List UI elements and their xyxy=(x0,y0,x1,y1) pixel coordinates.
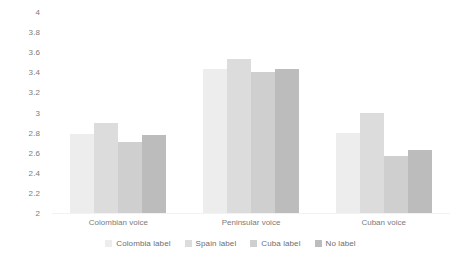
y-axis-tick-label: 2.2 xyxy=(29,188,40,197)
bar[interactable] xyxy=(408,150,432,213)
x-axis-category-label: Cuban voice xyxy=(361,218,405,227)
legend-swatch-icon xyxy=(185,240,192,247)
legend-swatch-icon xyxy=(315,240,322,247)
bar-group xyxy=(185,12,318,213)
y-axis-tick-label: 3.8 xyxy=(29,28,40,37)
bar[interactable] xyxy=(94,123,118,213)
y-axis-tick-label: 3.4 xyxy=(29,68,40,77)
y-axis-tick-label: 2 xyxy=(35,209,40,218)
x-axis: Colombian voicePeninsular voiceCuban voi… xyxy=(52,216,450,234)
x-axis-category-label: Peninsular voice xyxy=(222,218,281,227)
bar-chart: 43.83.63.43.232.82.62.42.22 Colombian vo… xyxy=(0,0,461,264)
y-axis-tick-label: 2.4 xyxy=(29,168,40,177)
bar-group xyxy=(52,12,185,213)
bar[interactable] xyxy=(251,72,275,213)
bar-group-bars xyxy=(185,12,318,213)
bar-group xyxy=(317,12,450,213)
chart-legend: Colombia labelSpain labelCuba labelNo la… xyxy=(0,239,461,248)
bar-group-bars xyxy=(317,12,450,213)
y-axis: 43.83.63.43.232.82.62.42.22 xyxy=(0,12,46,213)
legend-item[interactable]: Cuba label xyxy=(250,239,300,248)
bar[interactable] xyxy=(360,113,384,214)
y-axis-tick-label: 2.8 xyxy=(29,128,40,137)
bar[interactable] xyxy=(384,156,408,213)
axis-baseline xyxy=(52,213,450,214)
y-axis-tick-label: 3 xyxy=(35,108,40,117)
legend-item[interactable]: Spain label xyxy=(185,239,237,248)
legend-swatch-icon xyxy=(105,240,112,247)
y-axis-tick-label: 2.6 xyxy=(29,148,40,157)
legend-swatch-icon xyxy=(250,240,257,247)
y-axis-tick-label: 3.2 xyxy=(29,88,40,97)
y-axis-tick-label: 4 xyxy=(35,8,40,17)
bar[interactable] xyxy=(118,142,142,213)
legend-item[interactable]: Colombia label xyxy=(105,239,170,248)
y-axis-tick-label: 3.6 xyxy=(29,48,40,57)
bar[interactable] xyxy=(275,69,299,213)
x-axis-category-label: Colombian voice xyxy=(89,218,148,227)
legend-label: Colombia label xyxy=(116,239,170,248)
bar[interactable] xyxy=(227,59,251,213)
bar[interactable] xyxy=(336,133,360,213)
legend-label: No label xyxy=(326,239,356,248)
bar-group-bars xyxy=(52,12,185,213)
legend-item[interactable]: No label xyxy=(315,239,356,248)
legend-label: Spain label xyxy=(196,239,237,248)
bar[interactable] xyxy=(142,135,166,213)
bar[interactable] xyxy=(70,134,94,213)
plot-area xyxy=(52,12,450,213)
bar[interactable] xyxy=(203,69,227,213)
legend-label: Cuba label xyxy=(261,239,300,248)
